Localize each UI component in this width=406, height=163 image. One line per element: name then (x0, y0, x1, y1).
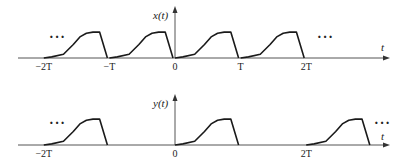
y-time-axis-arrow-icon (383, 143, 390, 148)
tick-label: −T (104, 61, 116, 72)
x-signal-label: x(t) (152, 9, 169, 22)
tick-label: 2T (301, 61, 312, 72)
tick-label: T (238, 61, 244, 72)
x-ellipsis-right: ··· (317, 30, 334, 45)
pulse (241, 32, 305, 58)
y-signal-label: y(t) (152, 97, 169, 110)
y-ellipsis-right: ··· (374, 116, 391, 131)
pulse (175, 119, 239, 145)
pulse (175, 32, 239, 58)
x-time-label: t (381, 41, 385, 53)
y-tick-labels: −2T02T (35, 148, 311, 159)
y-ellipsis-left: ··· (49, 116, 66, 131)
pulse (306, 119, 370, 145)
x-waveform (44, 32, 304, 58)
x-amplitude-axis-arrow-icon (173, 6, 178, 13)
plot-y: y(t) t ··· ··· −2T02T (18, 94, 391, 159)
tick-label: −2T (35, 148, 52, 159)
tick-label: 2T (301, 148, 312, 159)
tick-label: 0 (173, 61, 178, 72)
signal-diagram: x(t) t ··· ··· −2T−T0T2T y(t) t ··· ··· … (0, 0, 406, 163)
pulse (109, 32, 173, 58)
x-ellipsis-left: ··· (49, 30, 66, 45)
y-waveform (44, 119, 370, 145)
tick-label: 0 (173, 148, 178, 159)
y-time-label: t (381, 130, 385, 142)
plot-x: x(t) t ··· ··· −2T−T0T2T (18, 6, 390, 72)
tick-label: −2T (35, 61, 52, 72)
x-tick-labels: −2T−T0T2T (35, 61, 311, 72)
y-amplitude-axis-arrow-icon (173, 94, 178, 101)
x-time-axis-arrow-icon (383, 56, 390, 61)
